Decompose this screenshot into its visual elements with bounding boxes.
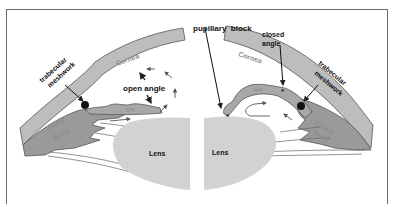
left-trabecular-meshwork-marker xyxy=(81,101,89,109)
right-lens-label: Lens xyxy=(212,149,228,156)
closed-label: closed xyxy=(262,31,284,38)
left-panel: open angle trabecular meshwork Cornea Ir… xyxy=(20,28,190,190)
right-flow-arrows xyxy=(246,103,292,120)
left-open-angle-label: open angle xyxy=(123,84,166,93)
left-iris xyxy=(85,104,162,115)
left-lens-label: Lens xyxy=(149,150,165,157)
angle-closure-diagram: open angle trabecular meshwork Cornea Ir… xyxy=(0,0,394,204)
closed-angle-label: angle xyxy=(262,40,280,48)
pupillary-block-label: pupillary block xyxy=(193,24,252,33)
left-iris-label: Iris xyxy=(126,106,136,113)
right-trabecular-meshwork-marker xyxy=(297,102,305,110)
right-panel: * * pupillary block closed angle trabecu… xyxy=(193,24,373,190)
